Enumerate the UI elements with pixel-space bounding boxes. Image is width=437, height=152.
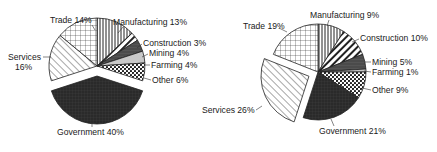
label-construction-left: Construction 3% [143, 38, 206, 48]
label-government-left: Government 40% [57, 127, 124, 137]
label-farming-left: Farming 4% [151, 60, 198, 70]
label-trade-left: Trade 14% [50, 15, 92, 25]
label-other-left: Other 6% [152, 75, 189, 85]
pie-chart-right [261, 24, 366, 122]
label-services-right: Services 26% [202, 105, 255, 115]
label-manufacturing-left: Manufacturing 13% [113, 17, 187, 27]
label-mining-left: Mining 4% [149, 48, 189, 58]
pie-slice-government [51, 76, 142, 124]
label-mining-right: Mining 5% [372, 57, 412, 67]
label-other-right: Other 9% [372, 85, 409, 95]
label-services-pct-left: 16% [15, 62, 33, 72]
pie-chart-left [49, 18, 145, 124]
label-trade-right: Trade 19% [243, 21, 285, 31]
pie-slice-services [261, 59, 309, 122]
label-manufacturing-right: Manufacturing 9% [310, 10, 380, 20]
pie-charts: Trade 14% Manufacturing 13% Construction… [0, 0, 437, 152]
label-construction-right: Construction 10% [360, 33, 428, 43]
label-farming-right: Farming 1% [372, 67, 419, 77]
label-services-left: Services [8, 52, 41, 62]
label-government-right: Government 21% [319, 126, 386, 136]
